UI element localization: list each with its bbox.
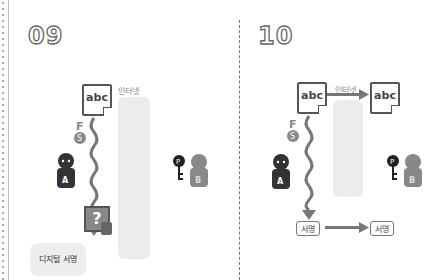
arrow-right-icon xyxy=(325,222,371,234)
svg-text:S: S xyxy=(290,132,295,141)
person-a-icon: A xyxy=(270,153,292,189)
arrow-right-icon xyxy=(327,89,371,101)
svg-text:F: F xyxy=(76,120,84,133)
svg-text:A: A xyxy=(62,176,69,185)
public-key-and-person-b-icon: P B xyxy=(386,153,426,187)
svg-text:A: A xyxy=(277,177,284,186)
document-icon: abc xyxy=(82,84,112,116)
internet-cloud xyxy=(118,97,150,259)
callout-digital-signature: 디지털 서명 xyxy=(30,243,86,276)
svg-text:P: P xyxy=(176,158,180,166)
page-edge-dots xyxy=(0,0,9,280)
svg-text:B: B xyxy=(195,176,201,185)
svg-text:F: F xyxy=(289,118,297,131)
internet-cloud xyxy=(333,100,363,197)
panel-number: 09 xyxy=(28,22,63,50)
person-a-icon: A xyxy=(55,152,77,188)
public-key-and-person-b-icon: P B xyxy=(172,153,212,187)
private-key-label: S xyxy=(77,134,82,143)
received-document-icon: abc xyxy=(370,82,400,114)
internet-label: 인터넷 xyxy=(118,85,139,96)
svg-text:B: B xyxy=(409,176,415,185)
document-icon: abc xyxy=(297,82,327,114)
signature-box: 서명 xyxy=(296,221,320,236)
panel-divider xyxy=(239,20,240,280)
lock-icon xyxy=(101,222,112,235)
received-signature-box: 서명 xyxy=(370,221,394,236)
svg-text:P: P xyxy=(390,158,394,166)
panel-number: 10 xyxy=(258,22,293,50)
